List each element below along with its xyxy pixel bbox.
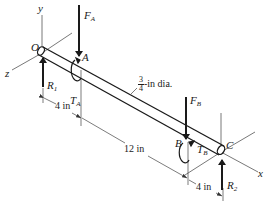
reaction-r2-label: R2: [227, 180, 237, 195]
dimension-ab-label: 12 in: [124, 144, 144, 154]
force-fb-label: FB: [190, 95, 201, 110]
point-c-label: C: [226, 140, 233, 151]
y-axis-label: y: [38, 3, 43, 14]
z-axis-label: z: [5, 68, 9, 79]
reaction-r1-label: R1: [47, 80, 57, 95]
torque-tb-label: TB: [197, 144, 207, 159]
point-b-label: B: [175, 138, 182, 149]
x-axis-label: x: [258, 168, 263, 179]
dimension-oa-label: 4 in: [55, 101, 70, 111]
origin-label: O: [31, 42, 39, 53]
axis-back: [42, 33, 72, 53]
dimension-bc-label: 4 in: [196, 182, 211, 192]
shaft-diagram: [0, 0, 267, 206]
torque-ta-label: TA: [70, 95, 80, 110]
diameter-label: 3 4 -in dia.: [138, 76, 172, 93]
point-a-label: A: [82, 52, 89, 63]
z-axis: [12, 53, 42, 70]
x-axis: [221, 152, 258, 172]
force-fa-label: FA: [84, 10, 95, 25]
